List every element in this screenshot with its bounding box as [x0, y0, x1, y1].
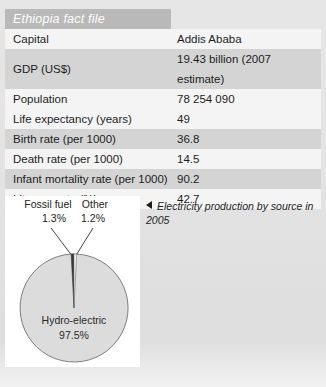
row-label: Capital — [5, 29, 171, 49]
row-label: Life expectancy (years) — [5, 109, 171, 129]
other-value: 1.2% — [81, 212, 105, 224]
row-label: GDP (US$) — [5, 49, 171, 89]
ethiopia-fact-file-table: Ethiopia fact file Capital Addis Ababa G… — [5, 9, 321, 209]
row-value: 19.43 billion (2007 estimate) — [171, 49, 321, 89]
row-value: 49 — [171, 109, 321, 129]
left-triangle-icon — [146, 201, 152, 209]
table-header-blank-cell — [171, 9, 321, 29]
other-label: Other — [82, 198, 109, 210]
fossil-fuel-label: Fossil fuel — [24, 198, 71, 210]
row-value: 36.8 — [171, 129, 321, 149]
table-row: GDP (US$) 19.43 billion (2007 estimate) — [5, 49, 321, 89]
row-label: Infant mortality rate (per 1000) — [5, 169, 171, 189]
row-value: 14.5 — [171, 149, 321, 169]
table-row: Death rate (per 1000) 14.5 — [5, 149, 321, 169]
row-value: 90.2 — [171, 169, 321, 189]
table-row: Population 78 254 090 — [5, 89, 321, 109]
table-row: Infant mortality rate (per 1000) 90.2 — [5, 169, 321, 189]
fossil-fuel-leader-line — [51, 228, 72, 256]
table-title: Ethiopia fact file — [5, 9, 171, 29]
electricity-production-pie-panel: Fossil fuel 1.3% Other 1.2% Hydro-electr… — [5, 196, 140, 367]
hydro-electric-value: 97.5% — [59, 329, 89, 341]
table-header-row: Ethiopia fact file — [5, 9, 321, 29]
row-label: Birth rate (per 1000) — [5, 129, 171, 149]
table-row: Capital Addis Ababa — [5, 29, 321, 49]
other-leader-line — [76, 228, 93, 256]
row-label: Death rate (per 1000) — [5, 149, 171, 169]
row-value: Addis Ababa — [171, 29, 321, 49]
chart-caption-text: Electricity production by source in 2005 — [146, 200, 313, 226]
hydro-electric-label: Hydro-electric — [42, 314, 107, 326]
table-row: Life expectancy (years) 49 — [5, 109, 321, 129]
fossil-fuel-value: 1.3% — [42, 212, 66, 224]
row-value: 78 254 090 — [171, 89, 321, 109]
pie-chart-svg: Fossil fuel 1.3% Other 1.2% Hydro-electr… — [5, 196, 140, 367]
table-row: Birth rate (per 1000) 36.8 — [5, 129, 321, 149]
chart-caption: Electricity production by source in 2005 — [146, 199, 318, 227]
row-label: Population — [5, 89, 171, 109]
